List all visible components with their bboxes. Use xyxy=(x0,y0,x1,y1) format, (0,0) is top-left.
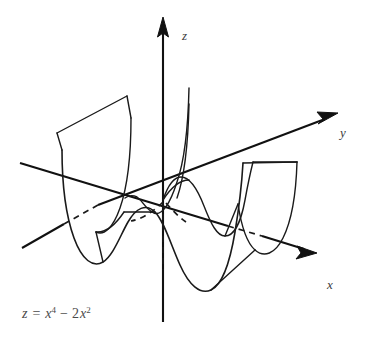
z-axis-label: z xyxy=(181,28,187,43)
equation-term2-exponent: 2 xyxy=(86,305,91,315)
equation-minus: − xyxy=(60,306,68,321)
x-axis-label: x xyxy=(326,277,333,292)
y-axis-label: y xyxy=(338,125,346,140)
equation-term1-exponent: 4 xyxy=(52,305,57,315)
equation-lhs: z xyxy=(21,306,28,321)
equation-term2-coefficient: 2 xyxy=(72,306,79,321)
surface-plot-figure: z y x z=x4−2x2 xyxy=(0,0,369,340)
equation-equals: = xyxy=(32,306,40,321)
figure-background xyxy=(0,0,369,340)
